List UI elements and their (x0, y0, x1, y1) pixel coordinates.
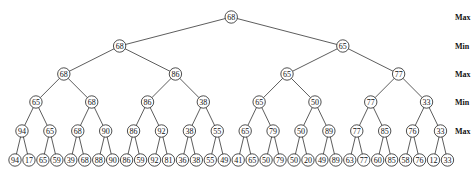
leaf-node: 79 (274, 154, 286, 166)
svg-text:33: 33 (436, 127, 444, 136)
svg-text:76: 76 (409, 127, 417, 136)
tree-node: 68 (225, 11, 237, 23)
svg-text:68: 68 (81, 156, 89, 165)
svg-text:86: 86 (123, 156, 131, 165)
tree-node: 65 (281, 68, 293, 80)
tree-node: 68 (86, 96, 98, 108)
svg-text:68: 68 (88, 98, 96, 107)
leaf-node: 88 (93, 154, 105, 166)
svg-text:81: 81 (164, 156, 172, 165)
svg-text:68: 68 (74, 127, 82, 136)
leaf-node: 39 (65, 154, 77, 166)
leaf-node: 86 (120, 154, 132, 166)
tree-node: 65 (337, 40, 349, 52)
tree-edge (343, 46, 399, 74)
leaf-node: 77 (358, 154, 370, 166)
leaf-node: 90 (106, 154, 118, 166)
tree-node: 92 (155, 125, 167, 137)
leaf-node: 85 (385, 154, 397, 166)
svg-text:94: 94 (18, 127, 26, 136)
leaf-node: 65 (37, 154, 49, 166)
svg-text:50: 50 (262, 156, 270, 165)
svg-text:85: 85 (381, 127, 389, 136)
tree-edge (287, 46, 343, 74)
tree-node: 65 (44, 125, 56, 137)
tree-node: 38 (183, 125, 195, 137)
tree-node: 85 (378, 125, 390, 137)
svg-text:59: 59 (53, 156, 61, 165)
svg-text:17: 17 (25, 156, 33, 165)
svg-text:92: 92 (157, 127, 165, 136)
svg-text:86: 86 (144, 98, 152, 107)
leaf-node: 76 (413, 154, 425, 166)
tree-node: 77 (365, 96, 377, 108)
svg-text:65: 65 (241, 127, 249, 136)
tree-node: 65 (239, 125, 251, 137)
leaf-node: 50 (288, 154, 300, 166)
svg-text:68: 68 (60, 70, 68, 79)
leaf-node: 36 (176, 154, 188, 166)
leaf-node: 55 (204, 154, 216, 166)
tree-node: 79 (267, 125, 279, 137)
leaf-node: 20 (302, 154, 314, 166)
leaf-node: 41 (232, 154, 244, 166)
svg-text:94: 94 (11, 156, 19, 165)
svg-text:33: 33 (443, 156, 451, 165)
svg-text:38: 38 (185, 127, 193, 136)
tree-edge (231, 17, 343, 46)
tree-node: 55 (211, 125, 223, 137)
svg-text:89: 89 (332, 156, 340, 165)
tree-node: 86 (169, 68, 181, 80)
tree-edge (120, 17, 232, 46)
svg-text:76: 76 (416, 156, 424, 165)
svg-text:65: 65 (248, 156, 256, 165)
svg-text:59: 59 (137, 156, 145, 165)
svg-text:65: 65 (339, 42, 347, 51)
tree-node: 50 (295, 125, 307, 137)
tree-node: 33 (420, 96, 432, 108)
svg-text:63: 63 (346, 156, 354, 165)
svg-text:86: 86 (130, 127, 138, 136)
leaf-node: 58 (399, 154, 411, 166)
svg-text:49: 49 (220, 156, 228, 165)
svg-text:41: 41 (234, 156, 242, 165)
tree-node: 94 (16, 125, 28, 137)
leaf-node: 94 (9, 154, 21, 166)
leaf-node: 81 (162, 154, 174, 166)
leaf-node: 89 (330, 154, 342, 166)
svg-text:68: 68 (116, 42, 124, 51)
level-label-min: Min (455, 98, 470, 107)
svg-text:60: 60 (374, 156, 382, 165)
leaf-node: 60 (372, 154, 384, 166)
leaf-node: 33 (441, 154, 453, 166)
tree-node: 33 (434, 125, 446, 137)
svg-text:38: 38 (199, 98, 207, 107)
tree-node: 86 (141, 96, 153, 108)
svg-text:50: 50 (297, 127, 305, 136)
level-label-max: Max (455, 127, 471, 136)
tree-node: 68 (58, 68, 70, 80)
tree-edge (120, 46, 176, 74)
tree-node: 86 (127, 125, 139, 137)
svg-text:38: 38 (192, 156, 200, 165)
svg-text:58: 58 (402, 156, 410, 165)
svg-text:55: 55 (206, 156, 214, 165)
svg-text:65: 65 (283, 70, 291, 79)
svg-text:20: 20 (304, 156, 312, 165)
svg-text:77: 77 (360, 156, 368, 165)
leaf-node: 63 (344, 154, 356, 166)
leaf-node: 49 (316, 154, 328, 166)
svg-text:77: 77 (353, 127, 361, 136)
leaf-node: 59 (134, 154, 146, 166)
level-label-max: Max (455, 13, 471, 22)
level-label-min: Min (455, 42, 470, 51)
tree-node: 68 (72, 125, 84, 137)
svg-text:65: 65 (32, 98, 40, 107)
tree-node: 65 (253, 96, 265, 108)
svg-text:55: 55 (213, 127, 221, 136)
tree-node: 77 (351, 125, 363, 137)
leaf-node: 68 (79, 154, 91, 166)
svg-text:12: 12 (430, 156, 438, 165)
svg-text:89: 89 (325, 127, 333, 136)
svg-text:49: 49 (318, 156, 326, 165)
